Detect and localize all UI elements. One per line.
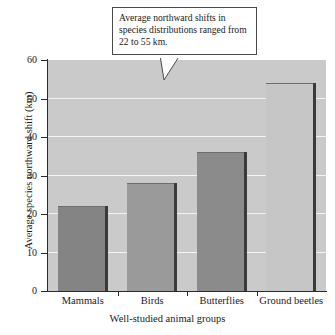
bar-top-edge [266,83,316,84]
y-tick-mark [41,214,48,215]
y-tick-mark [41,137,48,138]
y-tick-mark [41,60,48,61]
callout-tail-icon [158,55,182,80]
bar-top-edge [127,183,177,184]
bar-shadow [174,183,177,291]
bar-shadow [244,152,247,291]
bar-body [197,152,247,291]
callout-text: Average northward shifts in species dist… [119,12,247,47]
bar-shadow [313,83,316,291]
bar-top-edge [58,206,108,207]
bar-top-edge [197,152,247,153]
bar-shadow [105,206,108,291]
bar [127,183,177,291]
callout-box: Average northward shifts in species dist… [112,7,257,55]
chart-figure: 0102030405060 Average species northward … [0,0,335,335]
y-axis-title: Average species northward shift (km) [23,63,34,278]
y-tick-mark [41,253,48,254]
bar-body [266,83,316,291]
bar [197,152,247,291]
x-tick-label: Ground beetles [241,295,335,306]
y-tick-mark [41,99,48,100]
bar-body [58,206,108,291]
bar [266,83,316,291]
bar [58,206,108,291]
y-tick-mark [41,291,48,292]
x-axis-title: Well-studied animal groups [0,313,335,324]
y-tick-mark [41,176,48,177]
plot-area [48,60,326,291]
bar-body [127,183,177,291]
